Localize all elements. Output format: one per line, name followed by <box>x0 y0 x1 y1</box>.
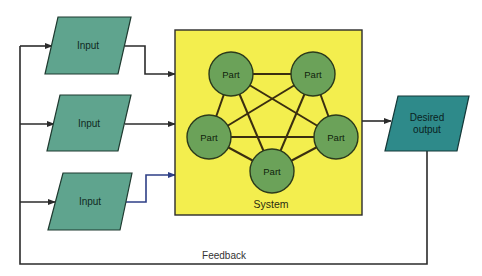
part-label: Part <box>327 132 345 143</box>
part-label: Part <box>222 69 240 80</box>
input-3: Input <box>48 173 132 230</box>
part-bottom: Part <box>250 149 294 193</box>
part-label: Part <box>304 69 322 80</box>
desired-output-label-line1: Desired <box>410 112 444 123</box>
part-middle-right: Part <box>314 115 358 159</box>
input-2-label: Input <box>78 118 100 129</box>
desired-output-label-line2: output <box>413 124 441 135</box>
input-3-label: Input <box>79 196 101 207</box>
part-label: Part <box>263 166 281 177</box>
part-top-right: Part <box>291 52 335 96</box>
system-diagram: Feedback Input Input Input <box>0 0 482 276</box>
system-box: Part Part Part Part Part System <box>175 30 362 215</box>
input-1-label: Input <box>77 40 99 51</box>
desired-output: Desired output <box>385 96 469 151</box>
feedback-label: Feedback <box>202 250 247 261</box>
input-2: Input <box>47 95 131 151</box>
part-label: Part <box>200 132 218 143</box>
input-1: Input <box>45 17 131 74</box>
system-label: System <box>253 198 288 210</box>
part-top-left: Part <box>209 52 253 96</box>
input-3-connector <box>126 175 175 202</box>
part-middle-left: Part <box>187 115 231 159</box>
input-1-connector <box>125 46 175 74</box>
